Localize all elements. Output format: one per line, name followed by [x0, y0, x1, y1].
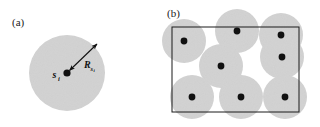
- sensor-node-b-5: [189, 94, 196, 101]
- panel-b-label: (b): [167, 7, 180, 20]
- figure-container: (a) s i R s i (b): [0, 0, 320, 127]
- sensor-node-b-3: [279, 54, 286, 61]
- sensor-node-b-7: [282, 94, 289, 101]
- figure-canvas: (a) s i R s i (b): [0, 0, 320, 127]
- sensor-node-a-label-base: s: [52, 69, 57, 80]
- sensor-node-b-0: [181, 38, 188, 45]
- sensor-node-b-6: [238, 94, 245, 101]
- sensor-node-b-1: [234, 28, 241, 35]
- panel-a-label: (a): [12, 16, 25, 29]
- sensor-node-a: [63, 69, 70, 76]
- sensor-node-a-label-sub: i: [58, 75, 60, 82]
- sensor-node-b-4: [218, 63, 225, 70]
- sensor-node-b-2: [278, 32, 285, 39]
